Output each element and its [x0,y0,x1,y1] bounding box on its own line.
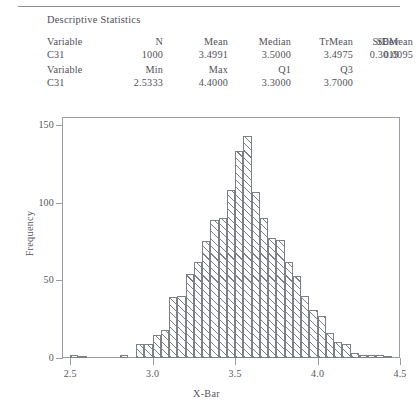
histogram-bar [219,218,227,358]
histogram-bar [285,262,293,358]
column-header: SEMean [0,36,413,47]
table-cell: 0.0095 [0,49,413,60]
histogram-bar [186,274,194,358]
x-axis-tick [318,358,319,365]
histogram-bar [194,262,202,358]
histogram-bar [384,356,392,358]
histogram-bar [169,297,177,358]
histogram-bar [227,190,235,358]
histogram-chart: 050100150 2.53.03.54.04.5 Frequency X-Ba… [0,100,413,409]
x-axis-title: X-Bar [0,388,413,399]
histogram-bar [268,238,276,358]
x-axis-tick [235,358,236,365]
x-axis-tick [70,358,71,365]
section-title: Descriptive Statistics [47,14,141,25]
x-axis-label: 3.5 [215,368,255,379]
histogram-bar [326,333,334,358]
histogram-bar [334,342,342,358]
x-axis-label: 4.0 [298,368,338,379]
y-axis-tick [56,280,63,281]
stats-table-primary: VariableNMeanMedianTrMeanStDevSEMean C31… [0,36,413,62]
histogram-bar [351,353,359,358]
table-header-row: VariableNMeanMedianTrMeanStDevSEMean [0,36,413,49]
histogram-bar [78,356,86,358]
histogram-bars [62,117,400,358]
histogram-bar [120,355,128,358]
y-axis-tick [56,358,63,359]
histogram-bar [260,218,268,358]
x-axis-label: 2.5 [50,368,90,379]
histogram-bar [359,355,367,358]
histogram-bar [136,344,144,358]
table-row: C3110003.49913.50003.49750.30190.0095 [0,49,413,62]
table-header-row: VariableMinMaxQ1Q3 [0,64,413,77]
x-axis-label: 3.0 [133,368,173,379]
histogram-bar [202,241,210,358]
histogram-bar [177,296,185,358]
y-axis-label: 50 [44,274,54,285]
histogram-bar [342,344,350,358]
histogram-bar [235,151,243,358]
header-divider [18,6,400,7]
y-axis-tick [56,203,63,204]
histogram-bar [161,330,169,358]
table-cell: 3.7000 [0,77,353,88]
column-header: Q3 [0,64,353,75]
histogram-bar [153,335,161,358]
histogram-bar [252,192,260,358]
stats-table-secondary: VariableMinMaxQ1Q3 C312.53334.40003.3000… [0,64,413,90]
histogram-bar [276,240,284,358]
x-axis-label: 4.5 [380,368,418,379]
histogram-bar [144,344,152,358]
histogram-bar [293,276,301,358]
x-axis-tick [153,358,154,365]
histogram-bar [301,296,309,358]
y-axis-label: 150 [38,119,54,130]
histogram-bar [210,220,218,358]
y-axis-label: 0 [49,352,54,363]
y-axis-title: Frequency [24,189,35,279]
histogram-bar [375,355,383,358]
y-axis-label: 100 [38,197,54,208]
x-axis-tick [400,358,401,365]
y-axis-tick [56,125,63,126]
histogram-bar [243,136,251,358]
table-row: C312.53334.40003.30003.7000 [0,77,413,90]
histogram-bar [367,355,375,358]
histogram-bar [318,316,326,358]
cropped-running-head [0,0,413,5]
histogram-bar [309,310,317,358]
histogram-bar [70,355,78,358]
